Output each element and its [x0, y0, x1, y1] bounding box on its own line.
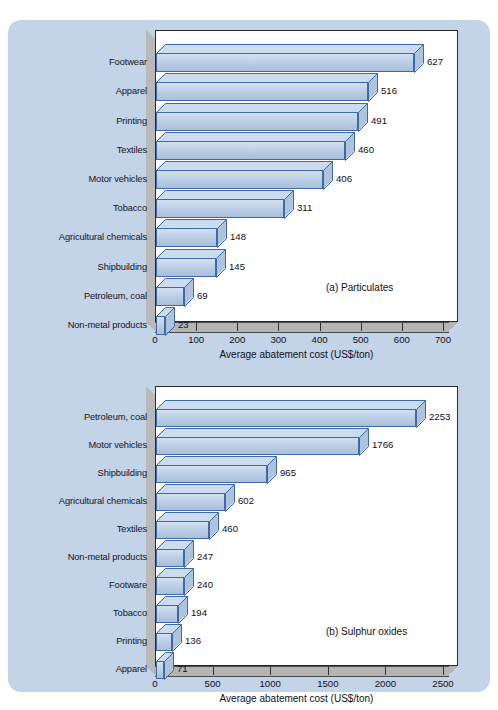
x-axis-tick-label: 2500 — [432, 678, 453, 689]
x-axis-tick — [270, 667, 271, 675]
bar-front-face — [156, 228, 217, 247]
bar-front-face — [156, 112, 358, 131]
category-label: Tobacco — [8, 203, 147, 213]
bar-front-face — [156, 521, 209, 539]
bar-3d — [156, 44, 425, 74]
bar-value-label: 406 — [336, 173, 352, 184]
x-axis-tick — [443, 323, 444, 331]
bar-3d — [156, 596, 189, 625]
bar-front-face — [156, 316, 165, 335]
category-label: Footwear — [8, 57, 147, 67]
bar-value-label: 2253 — [429, 411, 450, 422]
bar-value-label: 148 — [230, 231, 246, 242]
bar-front-face — [156, 437, 359, 455]
x-axis-tick-label: 500 — [205, 678, 221, 689]
category-label: Non-metal products — [8, 320, 147, 330]
x-axis-tick — [361, 323, 362, 331]
x-axis-tick-label: 1000 — [260, 678, 281, 689]
bar-value-label: 516 — [381, 85, 397, 96]
bar-value-label: 491 — [371, 115, 387, 126]
bar-value-label: 627 — [427, 56, 443, 67]
bar-front-face — [156, 549, 184, 567]
x-axis-tick-label: 1500 — [317, 678, 338, 689]
x-axis-tick-label: 700 — [435, 334, 451, 345]
bar-value-label: 240 — [197, 579, 213, 590]
figure-panel-background: 627Footwear516Apparel491Printing460Texti… — [8, 20, 490, 692]
bar-value-label: 965 — [280, 467, 296, 478]
chart-floor-front — [155, 666, 449, 677]
category-label: Tobacco — [8, 608, 147, 618]
category-label: Motor vehicles — [8, 174, 147, 184]
bar-front-face — [156, 199, 284, 218]
bar-3d — [156, 249, 227, 279]
bar-3d — [156, 278, 195, 308]
x-axis-tick-label: 400 — [312, 334, 328, 345]
x-axis-tick — [213, 667, 214, 675]
category-label: Shipbuilding — [8, 262, 147, 272]
bar-value-label: 460 — [358, 144, 374, 155]
x-axis-tick — [196, 323, 197, 331]
category-label: Textiles — [8, 145, 147, 155]
bar-front-face — [156, 82, 368, 101]
panel-caption: (a) Particulates — [326, 282, 393, 293]
figure-canvas: 627Footwear516Apparel491Printing460Texti… — [0, 0, 498, 710]
x-axis-tick-label: 0 — [152, 334, 157, 345]
x-axis-tick — [385, 667, 386, 675]
panel-caption: (b) Sulphur oxides — [326, 626, 407, 637]
x-axis-tick-label: 500 — [353, 334, 369, 345]
chart-floor-front — [155, 322, 449, 333]
bar-3d — [156, 624, 183, 653]
bar-value-label: 69 — [197, 290, 208, 301]
category-label: Agricultural chemicals — [8, 232, 147, 242]
category-label: Motor vehicles — [8, 440, 147, 450]
x-axis-title: Average abatement cost (US$/ton) — [220, 349, 374, 360]
bar-front-face — [156, 465, 267, 483]
bar-3d — [156, 484, 236, 513]
bar-value-label: 23 — [178, 319, 189, 330]
bar-front-face — [156, 577, 184, 595]
category-label: Apparel — [8, 86, 147, 96]
bar-3d — [156, 132, 356, 162]
x-axis-tick — [443, 667, 444, 675]
bar-3d — [156, 103, 369, 133]
bar-3d — [156, 161, 334, 191]
bar-front-face — [156, 493, 225, 511]
bar-value-label: 71 — [177, 663, 188, 674]
x-axis-tick-label: 600 — [394, 334, 410, 345]
category-label: Petroleum, coal — [8, 412, 147, 422]
x-axis-tick-label: 100 — [188, 334, 204, 345]
bar-3d — [156, 540, 195, 569]
category-label: Apparel — [8, 664, 147, 674]
bar-value-label: 194 — [191, 607, 207, 618]
bar-3d — [156, 428, 370, 457]
bar-3d — [156, 568, 195, 597]
x-axis-tick-label: 200 — [229, 334, 245, 345]
bar-3d — [156, 190, 295, 220]
bar-value-label: 145 — [229, 261, 245, 272]
category-label: Shipbuilding — [8, 468, 147, 478]
bar-front-face — [156, 287, 184, 306]
x-axis-tick-label: 2000 — [375, 678, 396, 689]
x-axis-tick-label: 300 — [270, 334, 286, 345]
bar-value-label: 1766 — [372, 439, 393, 450]
bar-3d — [156, 73, 379, 103]
chart-sulphur-oxides: 2253Petroleum, coal1766Motor vehicles965… — [8, 362, 490, 692]
bar-front-face — [156, 633, 172, 651]
bar-value-label: 460 — [222, 523, 238, 534]
bar-3d — [156, 219, 228, 249]
x-axis-tick — [328, 667, 329, 675]
chart-particulates: 627Footwear516Apparel491Printing460Texti… — [8, 20, 490, 368]
category-label: Printing — [8, 116, 147, 126]
x-axis-title: Average abatement cost (US$/ton) — [220, 693, 374, 704]
bar-front-face — [156, 605, 178, 623]
bar-3d — [156, 512, 220, 541]
category-label: Agricultural chemicals — [8, 496, 147, 506]
bar-value-label: 247 — [197, 551, 213, 562]
bar-value-label: 136 — [185, 635, 201, 646]
x-axis-tick — [237, 323, 238, 331]
x-axis-tick — [320, 323, 321, 331]
category-label: Petroleum, coal — [8, 291, 147, 301]
bar-front-face — [156, 661, 164, 679]
bar-3d — [156, 307, 176, 337]
bar-front-face — [156, 53, 414, 72]
